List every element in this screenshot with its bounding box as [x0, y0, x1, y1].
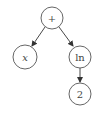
expression-tree-diagram: + x ln 2 [0, 0, 100, 117]
node-2-label: 2 [77, 89, 83, 100]
edge-root-to-x [32, 27, 45, 46]
node-2: 2 [69, 83, 91, 105]
node-plus: + [41, 7, 63, 29]
node-x: x [13, 45, 37, 69]
node-plus-label: + [48, 13, 56, 24]
node-x-label: x [22, 52, 28, 63]
node-ln: ln [69, 46, 91, 68]
node-ln-label: ln [75, 52, 85, 63]
edge-root-to-ln [59, 27, 73, 46]
